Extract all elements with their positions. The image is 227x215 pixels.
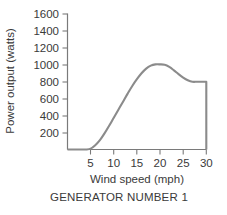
y-tick-label-1000: 1000	[33, 59, 59, 71]
x-tick-label-10: 10	[107, 157, 120, 169]
power-curve-chart: 1600 1400 1200 1000 800 600 400 200 5 10…	[0, 0, 227, 215]
x-axis-title: Wind speed (mph)	[90, 173, 184, 185]
x-tick-label-5: 5	[87, 157, 93, 169]
y-tick-label-1200: 1200	[33, 42, 59, 54]
y-axis-title: Power output (watts)	[4, 28, 16, 134]
x-tick-label-25: 25	[177, 157, 190, 169]
x-tick-label-30: 30	[200, 157, 213, 169]
chart-figure: 1600 1400 1200 1000 800 600 400 200 5 10…	[0, 0, 227, 215]
x-tick-label-15: 15	[130, 157, 143, 169]
y-tick-label-1400: 1400	[33, 25, 59, 37]
x-tick-label-20: 20	[154, 157, 167, 169]
y-tick-label-200: 200	[40, 127, 59, 139]
y-tick-label-600: 600	[40, 93, 59, 105]
chart-caption: GENERATOR NUMBER 1	[50, 191, 188, 203]
y-tick-label-1600: 1600	[33, 8, 59, 20]
y-tick-label-800: 800	[40, 76, 59, 88]
y-tick-label-400: 400	[40, 110, 59, 122]
